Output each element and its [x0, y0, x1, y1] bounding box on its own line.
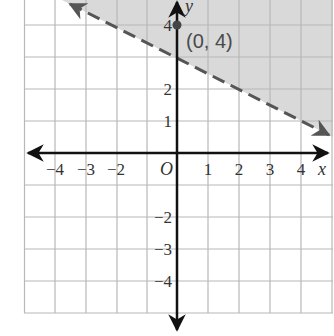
svg-text:−2: −2	[107, 160, 125, 179]
coordinate-graph: (0, 4) x y O −4 −3 −2 1 2 3 4 4 2 1 −2 −…	[0, 0, 334, 336]
svg-text:2: 2	[164, 80, 173, 99]
svg-text:3: 3	[266, 160, 275, 179]
x-axis-label: x	[317, 159, 326, 179]
origin-label: O	[160, 159, 173, 179]
svg-text:−4: −4	[46, 160, 65, 179]
point-0-4	[173, 21, 182, 30]
svg-text:4: 4	[297, 160, 306, 179]
y-axis-label: y	[183, 0, 193, 16]
svg-text:−3: −3	[77, 160, 95, 179]
point-label: (0, 4)	[186, 30, 233, 52]
svg-text:4: 4	[164, 16, 173, 35]
svg-text:−3: −3	[154, 240, 172, 259]
svg-text:1: 1	[164, 112, 173, 131]
svg-text:−4: −4	[154, 272, 173, 291]
svg-text:−2: −2	[154, 208, 172, 227]
svg-text:2: 2	[235, 160, 244, 179]
svg-text:1: 1	[204, 160, 213, 179]
